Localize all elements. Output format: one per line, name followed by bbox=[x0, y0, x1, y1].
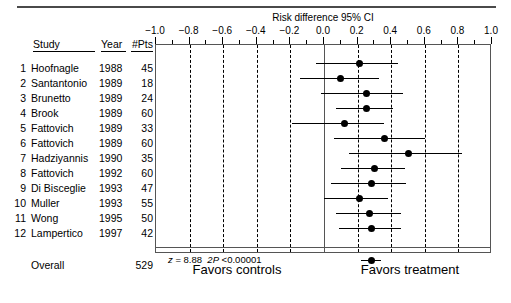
row-year: 1989 bbox=[99, 92, 129, 104]
table-row: 11Wong199550 bbox=[0, 212, 156, 227]
row-year: 1988 bbox=[99, 62, 129, 74]
row-patients: 33 bbox=[127, 122, 153, 134]
table-row: 2Santantonio198918 bbox=[0, 77, 156, 92]
column-header-pts: #Pts bbox=[131, 38, 153, 52]
point-estimate-marker bbox=[368, 180, 375, 187]
table-row: 3Brunetto198924 bbox=[0, 92, 156, 107]
row-study-name: Brook bbox=[31, 107, 58, 119]
row-patients: 42 bbox=[127, 227, 153, 239]
row-patients: 50 bbox=[127, 212, 153, 224]
row-number: 9 bbox=[0, 182, 26, 194]
row-year: 1993 bbox=[99, 197, 129, 209]
table-row: 6Fattovich198960 bbox=[0, 137, 156, 152]
row-number: 12 bbox=[0, 227, 26, 239]
axis-tick-major bbox=[222, 37, 223, 44]
row-number: 2 bbox=[0, 77, 26, 89]
axis-tick-major bbox=[256, 37, 257, 44]
point-estimate-marker bbox=[337, 75, 344, 82]
point-estimate-marker bbox=[363, 90, 370, 97]
overall-separator bbox=[156, 247, 490, 248]
row-number: 11 bbox=[0, 212, 26, 224]
row-patients: 47 bbox=[127, 182, 153, 194]
table-header-row: Study Year #Pts bbox=[0, 38, 156, 52]
table-row: 8Fattovich199260 bbox=[0, 167, 156, 182]
row-number: 7 bbox=[0, 152, 26, 164]
row-patients: 60 bbox=[127, 167, 153, 179]
row-number: 8 bbox=[0, 167, 26, 179]
row-number: 3 bbox=[0, 92, 26, 104]
row-study-name: Wong bbox=[31, 212, 58, 224]
axis-tick-major bbox=[491, 37, 492, 44]
forest-plot-figure: Risk difference 95% CI −1.0−0.8−0.6−0.4−… bbox=[0, 0, 511, 303]
row-year: 1995 bbox=[99, 212, 129, 224]
point-estimate-marker bbox=[341, 120, 348, 127]
axis-tick-major bbox=[189, 37, 190, 44]
table-row: 9Di Bisceglie199347 bbox=[0, 182, 156, 197]
gridline bbox=[425, 45, 426, 252]
gridline bbox=[391, 45, 392, 252]
gridline bbox=[290, 45, 291, 252]
point-estimate-marker bbox=[405, 150, 412, 157]
point-estimate-marker bbox=[366, 210, 373, 217]
axis-tick-major bbox=[457, 37, 458, 44]
gridline bbox=[257, 45, 258, 252]
point-estimate-marker bbox=[368, 225, 375, 232]
point-estimate-marker bbox=[356, 60, 363, 67]
point-estimate-marker bbox=[356, 195, 363, 202]
null-effect-line bbox=[324, 45, 325, 252]
row-patients: 55 bbox=[127, 197, 153, 209]
footer-favors-controls: Favors controls bbox=[152, 262, 322, 277]
column-header-study: Study bbox=[33, 38, 95, 52]
row-patients: 60 bbox=[127, 137, 153, 149]
row-number: 1 bbox=[0, 62, 26, 74]
gridline bbox=[223, 45, 224, 252]
row-study-name: Di Bisceglie bbox=[31, 182, 86, 194]
row-patients: 60 bbox=[127, 107, 153, 119]
row-number: 6 bbox=[0, 137, 26, 149]
table-row: 5Fattovich198933 bbox=[0, 122, 156, 137]
row-year: 1992 bbox=[99, 167, 129, 179]
top-rule bbox=[17, 6, 496, 8]
row-patients: 35 bbox=[127, 152, 153, 164]
gridline bbox=[190, 45, 191, 252]
row-year: 1993 bbox=[99, 182, 129, 194]
table-row: 10Muller199355 bbox=[0, 197, 156, 212]
table-row: 7Hadziyannis199035 bbox=[0, 152, 156, 167]
confidence-interval-line bbox=[334, 138, 425, 139]
row-number: 5 bbox=[0, 122, 26, 134]
confidence-interval-line bbox=[321, 93, 403, 94]
confidence-interval-line bbox=[292, 123, 384, 124]
row-year: 1989 bbox=[99, 107, 129, 119]
row-study-name: Fattovich bbox=[31, 122, 74, 134]
axis-tick-major bbox=[390, 37, 391, 44]
row-study-name: Hadziyannis bbox=[31, 152, 88, 164]
table-row: 12Lampertico199742 bbox=[0, 227, 156, 242]
row-study-name: Lampertico bbox=[31, 227, 83, 239]
column-header-year: Year bbox=[101, 38, 126, 52]
axis-title: Risk difference 95% CI bbox=[155, 12, 491, 23]
row-patients: 18 bbox=[127, 77, 153, 89]
row-patients: 24 bbox=[127, 92, 153, 104]
gridline bbox=[458, 45, 459, 252]
row-study-name: Santantonio bbox=[31, 77, 87, 89]
axis-tick-major bbox=[323, 37, 324, 44]
row-number: 10 bbox=[0, 197, 26, 209]
row-study-name: Fattovich bbox=[31, 137, 74, 149]
row-number: 4 bbox=[0, 107, 26, 119]
axis-tick-major bbox=[289, 37, 290, 44]
row-study-name: Hoofnagle bbox=[31, 62, 79, 74]
overall-label: Overall bbox=[31, 259, 64, 271]
row-study-name: Fattovich bbox=[31, 167, 74, 179]
point-estimate-marker bbox=[363, 105, 370, 112]
axis-tick-major bbox=[424, 37, 425, 44]
table-row: 1Hoofnagle198845 bbox=[0, 62, 156, 77]
row-study-name: Brunetto bbox=[31, 92, 71, 104]
row-year: 1997 bbox=[99, 227, 129, 239]
gridline bbox=[358, 45, 359, 252]
x-axis: −1.0−0.8−0.6−0.4−0.20.00.20.40.60.81.0 bbox=[155, 37, 491, 44]
table-row: 4Brook198960 bbox=[0, 107, 156, 122]
footer-favors-treatment: Favors treatment bbox=[325, 262, 495, 277]
row-year: 1989 bbox=[99, 122, 129, 134]
row-study-name: Muller bbox=[31, 197, 60, 209]
row-year: 1990 bbox=[99, 152, 129, 164]
